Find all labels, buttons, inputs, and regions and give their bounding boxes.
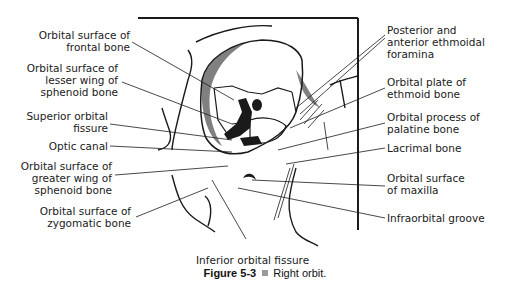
label-maxilla-surface: Orbital surface of maxilla	[387, 172, 465, 196]
square-bullet-icon	[262, 270, 268, 276]
label-line: Orbital process of	[387, 111, 480, 123]
label-infraorbital-groove: Infraorbital groove	[387, 212, 485, 224]
label-line: Orbital surface of	[39, 29, 130, 41]
label-line: Orbital surface of	[21, 160, 112, 172]
label-ethmoidal-foramina: Posterior and anterior ethmoidal foramin…	[387, 24, 485, 60]
label-line: greater wing of	[21, 172, 112, 184]
label-line: Optic canal	[49, 140, 108, 152]
label-line: Inferior orbital fissure	[196, 254, 309, 266]
label-optic-canal: Optic canal	[49, 140, 108, 152]
label-line: lesser wing of	[27, 74, 118, 86]
label-line: of maxilla	[387, 184, 465, 196]
label-greater-wing-sphenoid: Orbital surface of greater wing of sphen…	[21, 160, 112, 196]
orbit-rim	[158, 26, 358, 246]
orbit-fissures	[224, 98, 262, 180]
label-line: Orbital surface	[387, 172, 465, 184]
label-superior-orbital-fissure: Superior orbital fissure	[26, 110, 108, 134]
label-line: Orbital plate of	[387, 76, 466, 88]
label-line: Infraorbital groove	[387, 212, 485, 224]
label-line: frontal bone	[39, 41, 130, 53]
label-line: Superior orbital	[26, 110, 108, 122]
label-line: sphenoid bone	[27, 86, 118, 98]
label-ethmoid-plate: Orbital plate of ethmoid bone	[387, 76, 466, 100]
label-line: foramina	[387, 48, 485, 60]
label-frontal-bone: Orbital surface of frontal bone	[39, 29, 130, 53]
figure-number: Figure 5-3	[204, 267, 257, 279]
label-line: Orbital surface of	[27, 62, 118, 74]
label-line: ethmoid bone	[387, 88, 466, 100]
label-palatine-process: Orbital process of palatine bone	[387, 111, 480, 135]
label-lacrimal-bone: Lacrimal bone	[387, 142, 461, 154]
leader-lines	[110, 35, 385, 239]
label-line: fissure	[26, 122, 108, 134]
medial-wall-hatching	[274, 100, 328, 220]
label-line: Orbital surface of	[40, 205, 131, 217]
label-line: zygomatic bone	[40, 217, 131, 229]
label-line: sphenoid bone	[21, 184, 112, 196]
figure-title: Right orbit.	[273, 267, 326, 279]
label-line: Posterior and	[387, 24, 485, 36]
figure-caption: Figure 5-3Right orbit.	[150, 267, 380, 279]
label-line: anterior ethmoidal	[387, 36, 485, 48]
label-lesser-wing-sphenoid: Orbital surface of lesser wing of spheno…	[27, 62, 118, 98]
label-line: Lacrimal bone	[387, 142, 461, 154]
label-zygomatic-bone: Orbital surface of zygomatic bone	[40, 205, 131, 229]
label-line: palatine bone	[387, 123, 480, 135]
label-inferior-orbital-fissure: Inferior orbital fissure	[196, 254, 309, 266]
